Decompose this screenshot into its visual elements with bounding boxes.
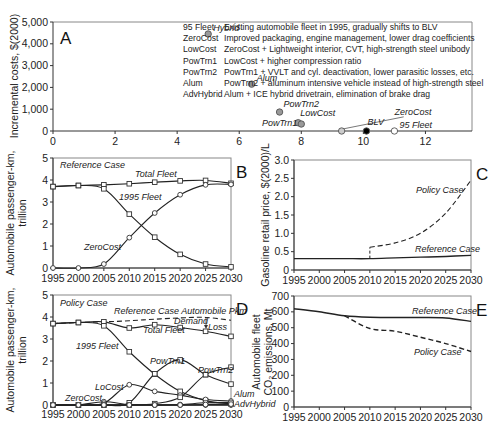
panel-b-ytick: 4 (42, 174, 48, 186)
panel-a-xtick: 6 (236, 135, 242, 147)
panel-a-ytick: 5,000 (22, 16, 48, 28)
point-blv (363, 128, 369, 134)
panel-b-1995-fleet-marker (51, 184, 56, 189)
panel-d-advhybrid-marker (76, 403, 81, 408)
panel-d-1995-fleet-marker (102, 324, 107, 329)
figure-canvas: 01,0002,0003,0004,0005,000024681012Incre… (0, 0, 504, 434)
panel-b-zerocost-marker (101, 262, 106, 267)
panel-c-ylabel: Gasoline retail price, $(2000)/L (259, 143, 271, 287)
panel-a-xtick: 8 (298, 135, 304, 147)
panel-e-ytick: 600 (271, 305, 289, 317)
legend-desc: Existing automobile fleet in 1995, gradu… (224, 22, 438, 32)
legend-desc: Improved packaging, engine management, l… (224, 33, 475, 43)
panel-b-xtick: 2005 (92, 272, 116, 284)
panel-c-xtick: 2030 (459, 274, 483, 286)
panel-d-1995-fleet-marker (51, 321, 56, 326)
panel-b-zerocost-marker (76, 266, 81, 271)
panel-e-xtick: 2000 (308, 411, 332, 423)
svg-text:trillion: trillion (16, 199, 28, 227)
panel-e-ytick: 200 (271, 369, 289, 381)
panel-e-ytick: 400 (271, 337, 289, 349)
panel-a-ylabel: Incremental costs, $(2000) (8, 14, 20, 138)
panel-b-1995-fleet-marker (229, 265, 234, 270)
point-powtrn2 (276, 109, 282, 115)
panel-b-ytick: 2 (42, 218, 48, 230)
svg-text:Automobile fleet: Automobile fleet (250, 314, 262, 389)
panel-b-ref-case: Reference Case (60, 160, 125, 170)
panel-d-1995-fleet-marker (127, 349, 132, 354)
panel-e-ytick: 700 (271, 290, 289, 302)
total-fleet-d-label: Total Fleet (143, 325, 185, 335)
point-95-fleet (391, 128, 397, 134)
panel-c-ytick: 3.0 (274, 154, 289, 166)
panel-b-1995-fleet-marker (203, 262, 208, 267)
loss-label: Loss (208, 322, 228, 332)
panel-d-1995-fleet (53, 322, 231, 403)
point-label: PowTrn1 (262, 118, 297, 128)
locost-label: LoCost (95, 382, 124, 392)
panel-b-1995-fleet-marker (76, 183, 81, 188)
panel-e-ytick: 500 (271, 321, 289, 333)
zerocost-d-label: ZeroCost (64, 393, 103, 403)
zerocost-b-label: ZeroCost (83, 242, 122, 252)
point-zerocost (338, 128, 344, 134)
panel-b-ylabel: Automobile passenger-km,trillion (4, 151, 28, 276)
panel-d-total-fleet-marker (127, 326, 132, 331)
point-label: BLV (367, 117, 385, 127)
advhybrid-label: AdvHybrid (233, 399, 277, 409)
1995-fleet-d-label: 1995 Fleet (76, 341, 119, 351)
panel-d-policy-case: Policy Case (60, 298, 108, 308)
panel-a-xtick: 4 (174, 135, 180, 147)
panel-c-xtick: 2025 (434, 274, 458, 286)
panel-c-xtick: 2000 (308, 274, 332, 286)
legend-desc: Alum + ICE hybrid drivetrain, eliminatio… (224, 89, 430, 99)
panel-d-powtrn1-marker (229, 382, 234, 387)
panel-d-ytick: 4 (42, 311, 48, 323)
panel-a-xtick: 10 (358, 135, 370, 147)
legend-key: 95 Fleet (183, 22, 215, 32)
total-fleet-label: Total Fleet (135, 169, 177, 179)
panel-d-locost-marker (127, 382, 132, 387)
panel-d-ytick: 3 (42, 333, 48, 345)
svg-text:Gasoline retail price, $(2000): Gasoline retail price, $(2000)/L (259, 143, 271, 287)
point-powtrn1 (298, 121, 304, 127)
panel-d-total-fleet-marker (229, 334, 234, 339)
panel-e-ytick: 100 (271, 385, 289, 397)
panel-b-1995-fleet-marker (178, 252, 183, 257)
panel-e-ref-label: Reference Case (412, 306, 477, 316)
legend-desc: PowTrn1 + VVLT and cyl. deactivation, lo… (224, 67, 474, 77)
panel-a-xtick: 12 (420, 135, 432, 147)
legend-key: ZeroCost (183, 33, 219, 43)
ref-pkm-label: Reference Case Automobile Pkm (114, 306, 247, 316)
panel-c-ytick: 0.5 (274, 245, 289, 257)
panel-a-letter: A (60, 29, 72, 48)
panel-b-1995-fleet-marker (102, 187, 107, 192)
panel-e-xtick: 1995 (282, 411, 306, 423)
panel-b-xtick: 2025 (194, 272, 218, 284)
panel-c-letter: C (476, 165, 488, 184)
panel-a-ytick: 4,000 (22, 37, 48, 49)
point-label: LowCost (300, 108, 336, 118)
panel-d-ylabel: Automobile passenger-km,trillion (4, 288, 28, 413)
panel-d-xtick: 2005 (92, 408, 116, 420)
panel-e-letter: E (476, 301, 487, 320)
panel-a-xtick: 0 (50, 135, 56, 147)
panel-d-xtick: 2000 (67, 408, 91, 420)
panel-b-1995-fleet-marker (127, 212, 132, 217)
panel-d-advhybrid-marker (203, 402, 208, 407)
panel-c-ytick: 2.5 (274, 172, 289, 184)
panel-c-xtick: 1995 (282, 274, 306, 286)
panel-d-xtick: 2030 (219, 408, 243, 420)
1995-fleet-label: 1995 Fleet (119, 192, 162, 202)
panel-b-1995-fleet-marker (152, 235, 157, 240)
legend-key: LowCost (183, 44, 217, 54)
panel-c-ytick: 2.0 (274, 190, 289, 202)
panel-d-ytick: 2 (42, 355, 48, 367)
panel-d-powtrn2-marker (178, 395, 183, 400)
panel-d-advhybrid-marker (178, 403, 183, 408)
legend-key: PowTrn1 (183, 56, 217, 66)
legend-key: PowTrn2 (183, 67, 217, 77)
panel-a-ytick: 0 (42, 125, 48, 137)
panel-b-zerocost-marker (51, 266, 56, 271)
panel-a-xtick: 2 (112, 135, 118, 147)
